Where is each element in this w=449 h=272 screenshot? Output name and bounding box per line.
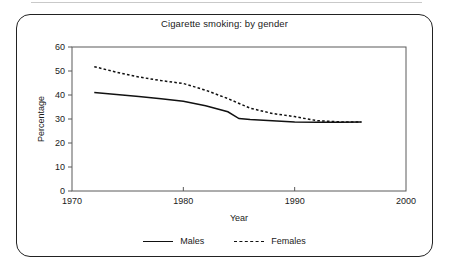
series-line-females [94,67,361,122]
legend-swatch-solid-line-icon [143,241,173,242]
y-axis-tick-label: 30 [55,114,65,124]
legend-label-females: Females [271,236,306,246]
y-axis-tick-label: 40 [55,90,65,100]
y-axis-tick-label: 20 [55,138,65,148]
line-chart-plot: 01020304050601970198019902000PercentageY… [0,0,449,272]
x-axis-tick-label: 2000 [396,196,416,206]
y-axis-tick-label: 10 [55,162,65,172]
legend-item-females: Females [234,236,306,246]
series-line-males [94,93,361,123]
chart-legend: Males Females [0,236,449,246]
y-axis-tick-label: 0 [60,186,65,196]
legend-swatch-dashed-line-icon [234,241,264,242]
x-axis-tick-label: 1980 [173,196,193,206]
figure-root: Cigarette smoking: by gender 01020304050… [0,0,449,272]
legend-label-males: Males [180,236,204,246]
x-axis-tick-label: 1970 [62,196,82,206]
y-axis-tick-label: 60 [55,42,65,52]
x-axis-tick-label: 1990 [285,196,305,206]
x-axis-title: Year [230,213,248,223]
y-axis-tick-label: 50 [55,66,65,76]
y-axis-title: Percentage [36,96,46,142]
legend-item-males: Males [143,236,204,246]
